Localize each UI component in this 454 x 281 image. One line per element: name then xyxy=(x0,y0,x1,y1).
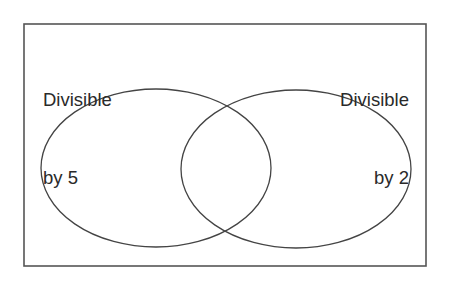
set-label-line2: by 2 xyxy=(340,165,409,191)
set-label-line2: by 5 xyxy=(43,165,112,191)
set-label-line1: Divisible xyxy=(43,87,112,113)
set-label-line1: Divisible xyxy=(340,87,409,113)
set-label-divisible-by-2: Divisible by 2 xyxy=(340,35,409,217)
set-label-divisible-by-5: Divisible by 5 xyxy=(43,35,112,217)
